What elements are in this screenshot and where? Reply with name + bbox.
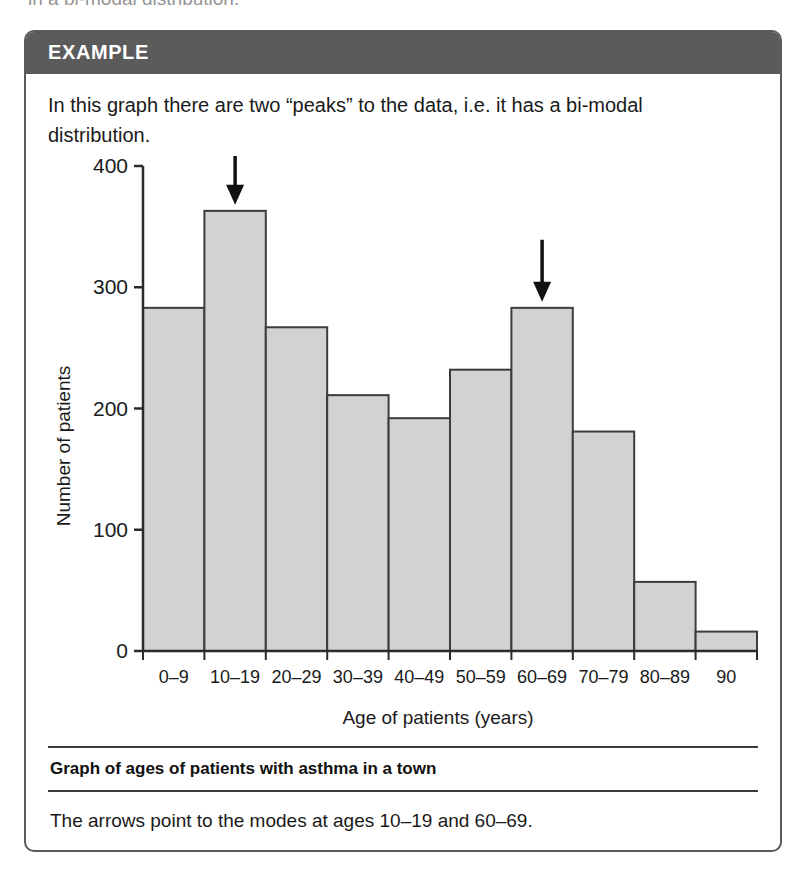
example-body: In this graph there are two “peaks” to t… [26,74,780,850]
x-tick-label: 0–9 [159,667,189,687]
example-header-label: EXAMPLE [26,32,780,74]
y-tick-label: 200 [93,397,128,420]
y-tick-label: 300 [93,275,128,298]
mode-arrow-icon [226,156,244,205]
footer-note: The arrows point to the modes at ages 10… [48,792,758,832]
x-tick-label: 60–69 [517,667,567,687]
intro-paragraph: In this graph there are two “peaks” to t… [48,74,698,150]
bar [573,432,634,651]
x-tick-label: 30–39 [333,667,383,687]
cut-off-body-text: in a bi-modal distribution. [28,0,448,10]
histogram-svg: 0100200300400 0–910–1920–2930–3940–4950–… [48,156,762,746]
y-tick-label: 100 [93,518,128,541]
mode-arrow-icon [533,240,551,302]
y-tick-label: 0 [116,639,128,662]
bar [450,370,511,651]
y-tick-label: 400 [93,156,128,177]
mode-arrows [226,156,551,302]
x-tick-label: 20–29 [271,667,321,687]
y-axis-label: Number of patients [53,366,74,527]
bar [143,308,204,651]
x-tick-label: 50–59 [456,667,506,687]
graph-caption: Graph of ages of patients with asthma in… [48,748,758,790]
x-tick-label: 10–19 [210,667,260,687]
x-axis-label: Age of patients (years) [342,707,533,728]
bar [204,211,265,651]
x-axis-ticks: 0–910–1920–2930–3940–4950–5960–6970–7980… [143,651,757,687]
x-tick-label: 90 [716,667,736,687]
bar-series [143,211,757,651]
x-tick-label: 70–79 [578,667,628,687]
bar [696,632,757,651]
x-tick-label: 80–89 [640,667,690,687]
bar [266,327,327,651]
bar [327,395,388,651]
bar [511,308,572,651]
example-callout-box: EXAMPLE In this graph there are two “pea… [24,30,782,852]
y-axis-ticks: 0100200300400 [93,156,143,662]
bar [389,418,450,651]
bar [634,582,695,651]
histogram-chart: 0100200300400 0–910–1920–2930–3940–4950–… [48,156,762,746]
x-tick-label: 40–49 [394,667,444,687]
